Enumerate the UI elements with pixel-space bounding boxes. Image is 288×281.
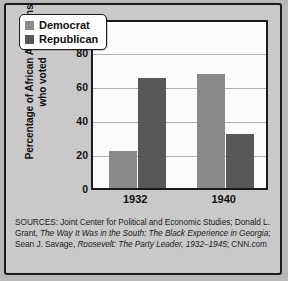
sources-book-title-1: The Way It Was in the South: The Black E… — [40, 228, 268, 238]
y-axis-tick-label: 20 — [46, 149, 88, 161]
bar-republican-1940 — [226, 134, 254, 188]
legend-swatch-icon — [25, 35, 34, 44]
bars-layer — [93, 22, 266, 188]
x-axis-tick-labels: 19321940 — [91, 193, 268, 211]
plot-box — [91, 20, 268, 190]
y-axis-tick-label: 40 — [46, 115, 88, 127]
bar-republican-1932 — [138, 78, 166, 189]
legend-item-democrat: Democrat — [25, 18, 98, 32]
legend-swatch-icon — [25, 21, 34, 30]
bar-democrat-1940 — [197, 74, 225, 188]
x-axis-tick-label: 1940 — [194, 193, 254, 205]
sources-note: SOURCES: Joint Center for Political and … — [15, 217, 273, 250]
bar-democrat-1932 — [109, 151, 137, 188]
legend-item-republican: Republican — [25, 32, 98, 46]
chart-figure: Percentage of African Americans who vote… — [4, 3, 282, 275]
chart-legend: DemocratRepublican — [19, 14, 107, 50]
y-axis-tick-label: 60 — [46, 81, 88, 93]
y-axis-tick-label: 0 — [46, 183, 88, 195]
chart-plot-region: Percentage of African Americans who vote… — [6, 9, 284, 213]
x-axis-tick-label: 1932 — [105, 193, 165, 205]
legend-item-label: Republican — [39, 33, 98, 45]
sources-suffix: ; CNN.com — [227, 239, 267, 249]
sources-book-title-2: Roosevelt: The Party Leader, 1932–1945 — [77, 239, 226, 249]
legend-item-label: Democrat — [39, 19, 90, 31]
